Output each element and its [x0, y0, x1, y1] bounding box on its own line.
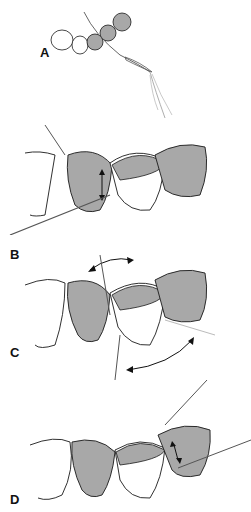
bridge-floss-distal-illustration [0, 380, 251, 512]
bridge-floss-sideways-illustration [0, 255, 251, 380]
panel-c: C [0, 255, 251, 380]
panel-a: A [0, 0, 251, 125]
panel-label-a: A [40, 45, 49, 60]
floss-threader-illustration [0, 0, 251, 125]
panel-b: B [0, 125, 251, 235]
panel-d: D [0, 380, 251, 512]
panel-label-d: D [10, 492, 19, 507]
panel-label-c: C [10, 345, 19, 360]
bridge-floss-updown-illustration [0, 125, 251, 235]
